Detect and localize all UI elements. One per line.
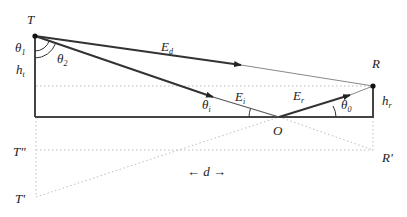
point-label-t-double-prime: T": [13, 145, 26, 158]
angle-label-theta2: θ2: [57, 52, 67, 68]
angle-label-theta0: θ0: [341, 98, 351, 114]
ray-label-ed: Ed: [161, 40, 173, 56]
theta1-arc: [35, 40, 50, 51]
theta0-arc: [333, 106, 336, 117]
point-label-o: O: [273, 124, 282, 137]
ray-label-ei: Ei: [235, 90, 245, 106]
point-label-t: T: [27, 13, 34, 26]
image-ray-continuation: [279, 117, 373, 150]
transmitter-point: [32, 33, 37, 38]
left-arrow-icon: ←: [187, 164, 200, 179]
theta-i-arc: [249, 109, 251, 118]
right-arrow-icon: →: [213, 164, 226, 179]
ray-label-er: Er: [293, 89, 304, 105]
point-label-t-prime: T': [15, 192, 25, 205]
point-label-r: R: [372, 57, 380, 70]
height-label-hr: hr: [382, 94, 392, 110]
image-ray-line: [36, 117, 279, 197]
point-label-r-prime: R': [382, 151, 393, 164]
direct-ray: [35, 36, 373, 86]
distance-label: ← d →: [187, 165, 226, 178]
angle-label-theta1: θ1: [15, 41, 25, 57]
height-label-ht: ht: [16, 63, 25, 79]
receiver-point: [370, 83, 375, 88]
angle-label-theta-i: θi: [202, 98, 211, 114]
